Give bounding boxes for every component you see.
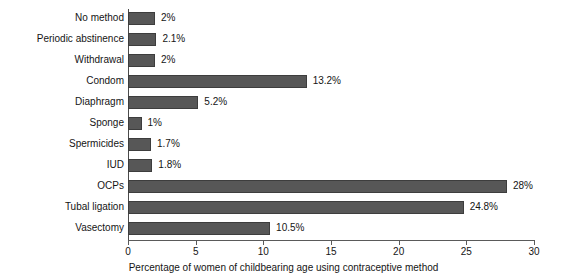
- x-tick-label: 20: [393, 246, 404, 258]
- bar-value-label: 1.7%: [157, 137, 180, 151]
- bar: [128, 180, 507, 193]
- category-label: IUD: [0, 158, 128, 172]
- x-tick-mark: [331, 240, 332, 245]
- bar-row: 24.8%: [128, 198, 534, 217]
- bar: [128, 54, 155, 67]
- bar-value-label: 13.2%: [313, 74, 341, 88]
- bar: [128, 12, 155, 25]
- category-label: Condom: [0, 74, 128, 88]
- x-tick-label: 30: [528, 246, 539, 258]
- bar-row: 1.7%: [128, 135, 534, 154]
- x-tick-mark: [399, 240, 400, 245]
- category-label: Tubal ligation: [0, 200, 128, 214]
- bar-row: 1%: [128, 114, 534, 133]
- bar-value-label: 1%: [148, 116, 162, 130]
- bar: [128, 75, 307, 88]
- bar: [128, 33, 156, 46]
- x-tick-label: 15: [325, 246, 336, 258]
- bar-value-label: 5.2%: [204, 95, 227, 109]
- bar-value-label: 1.8%: [158, 158, 181, 172]
- x-tick-mark: [128, 240, 129, 245]
- x-tick-label: 5: [193, 246, 199, 258]
- bar-value-label: 2%: [161, 53, 175, 67]
- bar: [128, 201, 464, 214]
- bar: [128, 96, 198, 109]
- bar-value-label: 2%: [161, 11, 175, 25]
- bar-value-label: 10.5%: [276, 221, 304, 235]
- bar-row: 5.2%: [128, 93, 534, 112]
- x-tick-mark: [534, 240, 535, 245]
- bar-row: 28%: [128, 177, 534, 196]
- x-tick-label: 25: [461, 246, 472, 258]
- x-tick-mark: [263, 240, 264, 245]
- bar-value-label: 28%: [513, 179, 533, 193]
- x-tick-label: 10: [258, 246, 269, 258]
- bar-chart: No methodPeriodic abstinenceWithdrawalCo…: [0, 0, 567, 279]
- category-label: OCPs: [0, 179, 128, 193]
- bar: [128, 117, 142, 130]
- bar: [128, 159, 152, 172]
- bar-row: 2.1%: [128, 30, 534, 49]
- bar-value-label: 24.8%: [470, 200, 498, 214]
- bar-rows: 2%2.1%2%13.2%5.2%1%1.7%1.8%28%24.8%10.5%: [128, 9, 534, 240]
- bar-row: 2%: [128, 9, 534, 28]
- x-axis-caption: Percentage of women of childbearing age …: [0, 261, 567, 274]
- bar: [128, 138, 151, 151]
- x-tick-label: 0: [125, 246, 131, 258]
- category-label: Sponge: [0, 116, 128, 130]
- category-label: Diaphragm: [0, 95, 128, 109]
- category-axis-labels: No methodPeriodic abstinenceWithdrawalCo…: [0, 9, 124, 240]
- bar-value-label: 2.1%: [162, 32, 185, 46]
- category-label: Withdrawal: [0, 53, 128, 67]
- category-label: No method: [0, 11, 128, 25]
- category-label: Vasectomy: [0, 221, 128, 235]
- category-label: Periodic abstinence: [0, 32, 128, 46]
- bar-row: 2%: [128, 51, 534, 70]
- x-tick-mark: [466, 240, 467, 245]
- bar: [128, 222, 270, 235]
- bar-row: 13.2%: [128, 72, 534, 91]
- x-tick-mark: [196, 240, 197, 245]
- category-label: Spermicides: [0, 137, 128, 151]
- bar-row: 1.8%: [128, 156, 534, 175]
- bar-row: 10.5%: [128, 219, 534, 238]
- plot-area: 2%2.1%2%13.2%5.2%1%1.7%1.8%28%24.8%10.5%: [128, 9, 534, 240]
